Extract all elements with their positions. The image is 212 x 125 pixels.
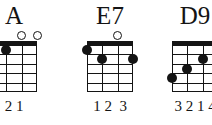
fret-line [87, 73, 133, 74]
string-line [172, 45, 173, 92]
finger-dot [97, 54, 107, 64]
finger-dot [167, 73, 177, 83]
fingering-numbers: 3 2 1 4 [172, 96, 212, 118]
fret-line [87, 64, 133, 65]
open-string-row [172, 30, 212, 41]
finger-dot [1, 45, 11, 55]
string-line [118, 45, 119, 92]
string-line [36, 45, 37, 92]
chord-diagram: E71 2 3 [87, 0, 151, 125]
open-string-circle-icon [33, 31, 42, 40]
fingering-numbers: 2 1 [0, 96, 37, 118]
finger-dot [182, 64, 192, 74]
fingering-numbers: 1 2 3 [87, 96, 133, 118]
fret-line [172, 64, 212, 65]
fret-line [172, 45, 212, 46]
string-line [203, 45, 204, 92]
chord-name: E7 [87, 2, 133, 30]
open-string-row [0, 30, 37, 41]
fret-line [87, 91, 133, 92]
chord-chart: A2 1E71 2 3D93 2 1 4 [0, 0, 212, 125]
grid-lines [0, 45, 37, 92]
finger-dot [198, 54, 208, 64]
finger-dot [82, 45, 92, 55]
chord-diagram: A2 1 [0, 0, 55, 125]
fret-line [87, 45, 133, 46]
chord-diagram: D93 2 1 4 [172, 0, 212, 125]
string-line [102, 45, 103, 92]
fret-line [172, 73, 212, 74]
open-string-circle-icon [113, 31, 122, 40]
fretboard-grid [0, 41, 37, 92]
fret-line [87, 54, 133, 55]
chord-name: A [0, 2, 37, 30]
fret-line [87, 83, 133, 84]
chord-name: D9 [172, 2, 212, 30]
finger-dot [128, 54, 138, 64]
string-line [22, 45, 23, 92]
fret-line [172, 91, 212, 92]
grid-lines [87, 45, 133, 92]
fretboard-grid [172, 41, 212, 92]
string-line [132, 45, 133, 92]
fretboard-grid [87, 41, 133, 92]
open-string-row [87, 30, 133, 41]
fret-line [172, 83, 212, 84]
open-string-circle-icon [17, 31, 26, 40]
grid-lines [172, 45, 212, 92]
